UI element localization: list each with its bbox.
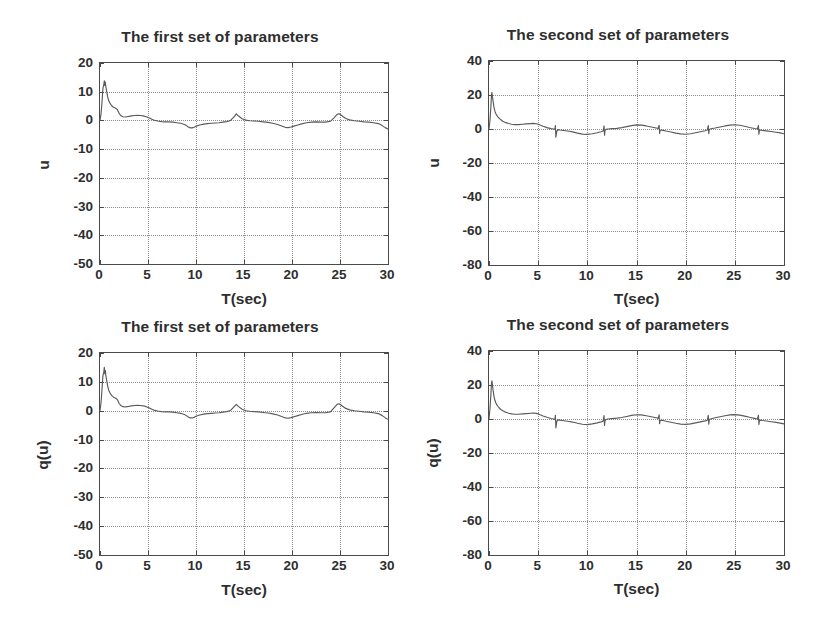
x-axis-tick: [784, 261, 785, 265]
plot-area: [488, 60, 785, 266]
panel-bottom-left: The first set of parameters T(sec) q(u) …: [0, 318, 408, 618]
y-tick-label: 40: [440, 343, 482, 358]
plot-area: [99, 352, 389, 556]
x-axis-label: T(sec): [488, 580, 785, 598]
x-tick-label: 15: [628, 558, 643, 573]
y-tick-label: -50: [51, 547, 93, 562]
y-tick-label: -40: [440, 479, 482, 494]
x-tick-label: 25: [331, 558, 346, 573]
y-tick-label: -10: [51, 431, 93, 446]
y-axis-tick: [780, 265, 784, 266]
y-tick-label: -10: [51, 141, 93, 156]
x-tick-label: 30: [775, 558, 790, 573]
y-tick-label: 20: [440, 377, 482, 392]
x-tick-label: 20: [677, 268, 692, 283]
series-path: [100, 81, 388, 129]
y-axis-tick: [384, 555, 388, 556]
y-tick-label: -50: [51, 256, 93, 271]
x-tick-label: 15: [628, 268, 643, 283]
y-axis-tick: [780, 555, 784, 556]
series-path: [489, 381, 784, 428]
y-tick-label: 20: [440, 87, 482, 102]
y-axis-label: q(u): [34, 420, 52, 490]
series-path: [100, 367, 388, 419]
y-tick-label: -20: [440, 155, 482, 170]
plot-area: [99, 62, 389, 265]
y-tick-label: -40: [51, 518, 93, 533]
x-axis-label: T(sec): [99, 290, 389, 308]
x-axis-tick: [784, 551, 785, 555]
x-tick-label: 15: [235, 558, 250, 573]
y-tick-label: -30: [51, 198, 93, 213]
y-axis-tick: [384, 264, 388, 265]
plot-area: [488, 350, 785, 556]
y-tick-label: -40: [440, 189, 482, 204]
x-tick-label: 25: [726, 268, 741, 283]
panel-top-right: The second set of parameters T(sec) u 05…: [408, 26, 816, 326]
y-axis-tick: [489, 265, 493, 266]
x-tick-label: 10: [579, 558, 594, 573]
x-axis-tick: [388, 551, 389, 555]
x-tick-label: 30: [775, 268, 790, 283]
data-curve: [489, 351, 784, 555]
x-axis-tick: [388, 353, 389, 357]
y-tick-label: -20: [51, 460, 93, 475]
data-curve: [489, 61, 784, 265]
x-tick-label: 15: [235, 267, 250, 282]
x-tick-label: 0: [95, 558, 103, 573]
y-tick-label: 0: [440, 121, 482, 136]
x-tick-label: 20: [677, 558, 692, 573]
panel-bottom-right: The second set of parameters T(sec) q(u)…: [408, 316, 816, 616]
y-tick-label: -60: [440, 223, 482, 238]
y-tick-label: -60: [440, 513, 482, 528]
x-tick-label: 0: [484, 268, 492, 283]
x-tick-label: 25: [726, 558, 741, 573]
series-path: [489, 92, 784, 137]
y-tick-label: -20: [51, 169, 93, 184]
y-tick-label: 0: [51, 402, 93, 417]
x-tick-label: 5: [143, 558, 151, 573]
panel-title: The first set of parameters: [40, 28, 400, 46]
x-tick-label: 10: [187, 558, 202, 573]
x-tick-label: 10: [579, 268, 594, 283]
panel-title: The second set of parameters: [428, 316, 808, 334]
y-tick-label: 20: [51, 345, 93, 360]
x-tick-label: 30: [379, 267, 394, 282]
x-tick-label: 10: [187, 267, 202, 282]
y-axis-tick: [489, 555, 493, 556]
y-axis-tick: [100, 555, 104, 556]
figure-four-panel-plots: The first set of parameters T(sec) u 051…: [0, 0, 816, 628]
x-tick-label: 20: [283, 558, 298, 573]
y-tick-label: -80: [440, 257, 482, 272]
x-tick-label: 5: [143, 267, 151, 282]
x-tick-label: 25: [331, 267, 346, 282]
y-tick-label: 40: [440, 53, 482, 68]
y-tick-label: 10: [51, 373, 93, 388]
x-axis-label: T(sec): [488, 290, 785, 308]
x-tick-label: 0: [484, 558, 492, 573]
panel-top-left: The first set of parameters T(sec) u 051…: [0, 28, 408, 328]
x-tick-label: 0: [95, 267, 103, 282]
y-tick-label: 0: [51, 112, 93, 127]
y-tick-label: -20: [440, 445, 482, 460]
x-axis-tick: [784, 351, 785, 355]
y-tick-label: -80: [440, 547, 482, 562]
y-tick-label: 0: [440, 411, 482, 426]
y-axis-tick: [100, 264, 104, 265]
x-tick-label: 20: [283, 267, 298, 282]
y-tick-label: -40: [51, 227, 93, 242]
x-tick-label: 5: [533, 558, 541, 573]
x-axis-tick: [784, 61, 785, 65]
x-axis-tick: [388, 260, 389, 264]
x-axis-tick: [388, 63, 389, 67]
y-tick-label: 20: [51, 55, 93, 70]
x-tick-label: 5: [533, 268, 541, 283]
y-tick-label: -30: [51, 489, 93, 504]
y-tick-label: 10: [51, 83, 93, 98]
panel-title: The second set of parameters: [428, 26, 808, 44]
data-curve: [100, 63, 388, 264]
data-curve: [100, 353, 388, 555]
x-tick-label: 30: [379, 558, 394, 573]
x-axis-label: T(sec): [99, 581, 389, 599]
panel-title: The first set of parameters: [40, 318, 400, 336]
